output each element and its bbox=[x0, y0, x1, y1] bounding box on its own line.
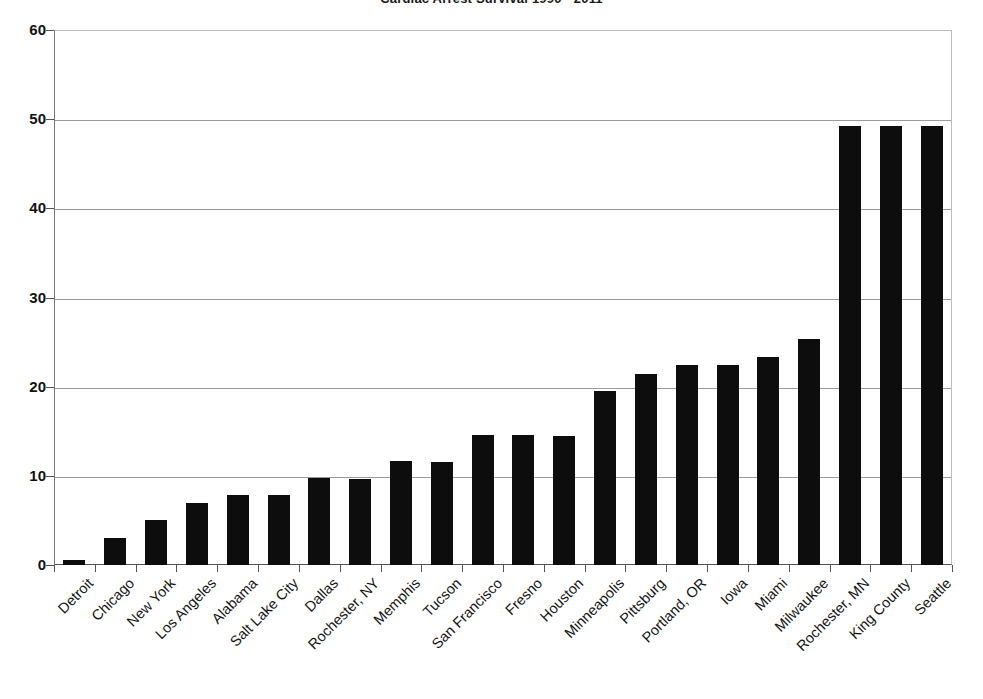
y-axis-tick-mark bbox=[46, 30, 54, 31]
x-axis-labels: DetroitChicagoNew YorkLos AngelesAlabama… bbox=[0, 565, 983, 699]
bar bbox=[308, 478, 330, 565]
bar bbox=[839, 126, 861, 565]
bar bbox=[635, 374, 657, 565]
bar bbox=[594, 391, 616, 565]
bar bbox=[186, 503, 208, 565]
bar bbox=[227, 495, 249, 565]
y-axis-tick-mark bbox=[46, 119, 54, 120]
bar bbox=[880, 126, 902, 565]
bar bbox=[798, 339, 820, 565]
x-axis-category-label: Iowa bbox=[717, 575, 750, 608]
y-axis-tick-mark bbox=[46, 476, 54, 477]
x-axis-category-label: Seattle bbox=[911, 575, 954, 618]
bar bbox=[390, 461, 412, 565]
cardiac-arrest-survival-bar-chart: Cardiac Arrest Survival 1990 - 2011 0102… bbox=[0, 0, 983, 699]
y-axis-tick-mark bbox=[46, 387, 54, 388]
y-axis-tick-label: 50 bbox=[4, 110, 46, 127]
y-axis-tick-label: 30 bbox=[4, 289, 46, 306]
bar bbox=[145, 520, 167, 565]
y-axis-tick-mark bbox=[46, 208, 54, 209]
bar bbox=[349, 479, 371, 565]
bar bbox=[472, 435, 494, 565]
y-axis-tick-mark bbox=[46, 298, 54, 299]
y-axis-tick-label: 40 bbox=[4, 199, 46, 216]
chart-title: Cardiac Arrest Survival 1990 - 2011 bbox=[0, 0, 983, 6]
bar bbox=[553, 436, 575, 565]
bar bbox=[676, 365, 698, 565]
x-axis-category-label: Miami bbox=[752, 575, 791, 614]
bar bbox=[512, 435, 534, 565]
bar bbox=[104, 538, 126, 565]
bars-container bbox=[54, 30, 952, 565]
bar bbox=[757, 357, 779, 565]
x-axis-category-label: Rochester, MN bbox=[793, 575, 872, 654]
bar bbox=[717, 365, 739, 565]
bar bbox=[431, 462, 453, 565]
y-axis-tick-label: 60 bbox=[4, 21, 46, 38]
bar bbox=[268, 495, 290, 565]
y-axis-tick-label: 20 bbox=[4, 378, 46, 395]
y-axis-tick-mark bbox=[46, 565, 54, 566]
bar bbox=[921, 126, 943, 565]
y-axis-tick-label: 10 bbox=[4, 467, 46, 484]
